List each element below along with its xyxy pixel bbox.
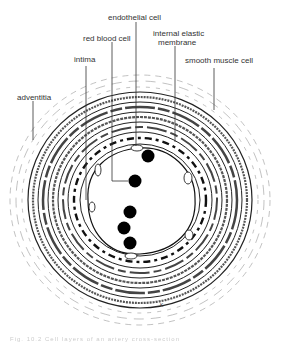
label-endothelial-cell: endothelial cell bbox=[108, 13, 161, 22]
artery-diagram: K endothelial cell red blood cell intern… bbox=[0, 0, 281, 347]
label-intima: intima bbox=[74, 55, 95, 64]
artery-illustration: K bbox=[0, 0, 281, 347]
bottom-mark: K bbox=[160, 302, 164, 308]
figure-caption: Fig. 10.2 Cell layers of an artery cross… bbox=[10, 336, 272, 342]
label-internal-elastic: internal elastic bbox=[153, 29, 204, 38]
label-membrane: membrane bbox=[158, 38, 196, 47]
label-smooth-muscle-cell: smooth muscle cell bbox=[185, 56, 253, 65]
lumen bbox=[88, 148, 195, 254]
label-adventitia: adventitia bbox=[17, 93, 51, 102]
label-red-blood-cell: red blood cell bbox=[83, 34, 131, 43]
